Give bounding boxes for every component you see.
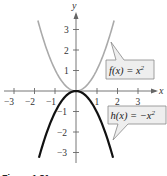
x-tick-label: −1 [46, 97, 56, 107]
f-callout: f(x) = x2 [106, 42, 154, 79]
x-tick-labels: −3 −2 −1 1 2 3 [4, 97, 141, 107]
x-tick-label: 1 [95, 97, 100, 107]
y-tick-label: 2 [64, 46, 69, 56]
figure: x y −3 −2 −1 1 2 3 3 2 1 −1 −2 −3 [0, 0, 167, 176]
figure-caption: Figure 1.81 [2, 173, 50, 176]
x-axis-arrow-icon [151, 89, 158, 94]
y-tick-label: 3 [64, 25, 69, 35]
h-equation-label: h(x) = −x2 [111, 109, 156, 122]
x-tick-label: −3 [4, 97, 14, 107]
x-tick-label: 3 [136, 97, 141, 107]
y-axis-arrow-icon [74, 12, 79, 19]
y-tick-label: 1 [64, 66, 69, 76]
y-tick-label: −2 [57, 128, 67, 138]
y-tick-label: −1 [57, 107, 67, 117]
x-tick-label: 2 [115, 97, 120, 107]
y-axis-label: y [71, 0, 77, 11]
y-tick-label: −3 [57, 148, 67, 158]
axes: x y [4, 0, 164, 163]
y-tick-labels: 3 2 1 −1 −2 −3 [57, 25, 69, 158]
f-equation-label: f(x) = x2 [109, 64, 145, 77]
x-axis-label: x [158, 85, 164, 96]
x-tick-label: −2 [25, 97, 35, 107]
h-callout: h(x) = −x2 [108, 106, 166, 140]
